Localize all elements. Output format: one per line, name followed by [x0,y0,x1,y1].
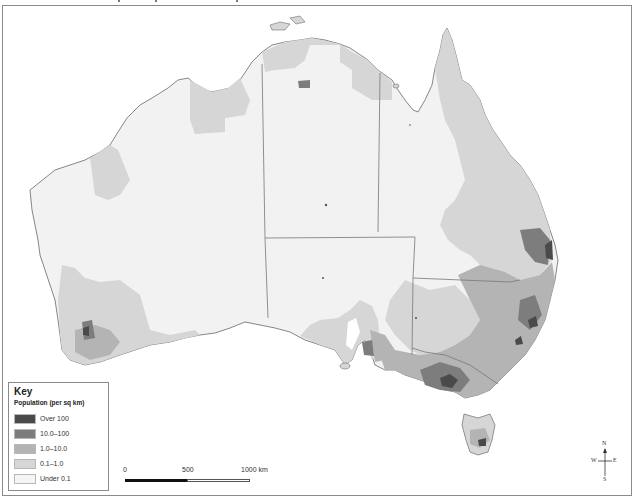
north-arrow-icon [591,440,621,490]
swatch-under-0.1 [14,474,36,484]
key-item-0.1-1: 0.1–1.0 [14,456,103,471]
key-label: Over 100 [40,415,69,422]
key-title: Key [14,386,103,398]
key-label: Under 0.1 [40,475,71,482]
map-key: Key Population (per sq km) Over 100 10.0… [8,382,109,491]
swatch-10-100 [14,429,36,439]
scale-bar-black-segment [125,479,187,482]
scale-tick-0: 0 [123,466,127,473]
key-item-over-100: Over 100 [14,411,103,426]
scale-bar-white-segment [187,479,250,482]
scale-tick-1000: 1000 km [241,466,268,473]
swatch-1-10 [14,444,36,454]
key-item-10-100: 10.0–100 [14,426,103,441]
compass-rose: N W E S [591,440,621,490]
scale-tick-500: 500 [182,466,194,473]
key-label: 0.1–1.0 [40,460,63,467]
swatch-over-100 [14,414,36,424]
swatch-0.1-1 [14,459,36,469]
key-label: 10.0–100 [40,430,69,437]
key-label: 1.0–10.0 [40,445,67,452]
key-subtitle: Population (per sq km) [14,398,103,408]
scale-bar: 0 500 1000 km [118,466,288,490]
key-item-under-0.1: Under 0.1 [14,471,103,486]
key-item-1-10: 1.0–10.0 [14,441,103,456]
